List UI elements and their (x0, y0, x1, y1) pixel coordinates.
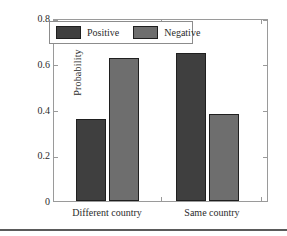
x-tick-label-different-country: Different country (47, 207, 167, 218)
bar-negative-same-country (209, 114, 239, 201)
y-tick-label: 0.2 (38, 150, 51, 161)
legend-label-positive: Positive (87, 27, 119, 38)
x-tick-label-same-country: Same country (152, 207, 272, 218)
y-tick-mark-right (263, 20, 267, 21)
y-tick-label: 0 (45, 196, 50, 207)
bar-negative-different-country (109, 58, 139, 201)
x-tick-mark-1 (161, 197, 162, 201)
x-tick-mark-top-2 (261, 20, 262, 24)
y-tick-label: 0.6 (38, 59, 51, 70)
legend-entry-positive: Positive (56, 22, 119, 43)
legend-swatch-negative-icon (133, 26, 158, 39)
y-tick-mark (54, 65, 58, 66)
bar-positive-different-country (76, 119, 106, 201)
legend-swatch-positive-icon (56, 26, 81, 39)
bottom-divider (0, 229, 287, 231)
y-tick-mark-right (263, 157, 267, 158)
chart-legend: Positive Negative (49, 21, 193, 44)
y-tick-mark (54, 157, 58, 158)
x-tick-mark-2 (261, 197, 262, 201)
y-tick-label: 0.4 (38, 105, 51, 116)
legend-label-negative: Negative (164, 27, 200, 38)
legend-entry-negative: Negative (133, 22, 200, 43)
y-tick-mark-right (263, 65, 267, 66)
y-tick-mark (54, 111, 58, 112)
y-tick-mark-right (263, 111, 267, 112)
bar-positive-same-country (176, 53, 206, 201)
bar-chart-figure: Probability 0.8 0.6 0.4 0.2 0 (0, 0, 287, 236)
plot-area: Probability 0.8 0.6 0.4 0.2 0 (53, 19, 268, 202)
